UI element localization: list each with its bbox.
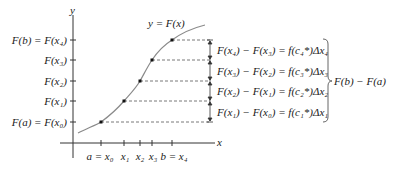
y-tick-label-x2: F(x₂) — [43, 75, 67, 88]
x-tick-label-x2: x₂ — [135, 150, 145, 162]
curve-label: y = F(x) — [147, 17, 185, 30]
equation-2: F(x₂) − F(x₁) = f(c₂*)Δx₂ — [216, 85, 328, 98]
x-tick-label-a: a = x₀ — [86, 150, 113, 162]
x-tick-label-b: b = x₄ — [160, 150, 187, 162]
y-tick-label-x3: F(x₃) — [43, 54, 67, 67]
y-tick-label-x1: F(x₁) — [43, 95, 67, 108]
equation-1: F(x₁) − F(x₀) = f(c₁*)Δx₁ — [216, 106, 328, 119]
x-tick-labels: a = x₀ x₁ x₂ x₃ b = x₄ — [86, 150, 187, 162]
point-x2 — [139, 80, 142, 83]
x-axis-label: x — [216, 136, 222, 148]
equation-4: F(x₄) − F(x₃) = f(c₄*)Δx₄ — [216, 44, 328, 57]
point-x4 — [171, 39, 174, 42]
y-axis-label: y — [69, 4, 75, 16]
y-tick-label-x4: F(b) = F(x₄) — [11, 34, 68, 47]
difference-equations: F(x₄) − F(x₃) = f(c₄*)Δx₄ F(x₃) − F(x₂) … — [216, 44, 328, 119]
point-x0 — [100, 121, 103, 124]
equation-3: F(x₃) − F(x₂) = f(c₃*)Δx₃ — [216, 65, 328, 78]
curve-F — [78, 25, 205, 133]
brace-label: F(b) − F(a) — [333, 75, 386, 88]
point-x1 — [123, 100, 126, 103]
y-tick-labels: F(b) = F(x₄) F(x₃) F(x₂) F(x₁) F(a) = F(… — [11, 34, 68, 129]
ftc-diagram: y x F(b) = F(x₄) F(x₃) F(x₂) F(x₁) F(a) … — [0, 0, 395, 170]
point-x3 — [151, 59, 154, 62]
dashed-level-lines — [101, 40, 210, 122]
x-tick-label-x3: x₃ — [148, 150, 158, 162]
y-tick-label-x0: F(a) = F(x₀) — [11, 116, 68, 129]
x-tick-label-x1: x₁ — [120, 150, 130, 162]
